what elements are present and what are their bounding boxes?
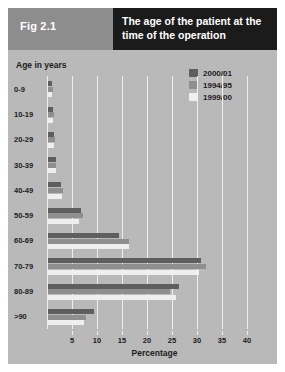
bar-group <box>47 203 262 228</box>
bar-group <box>47 177 262 202</box>
bar <box>48 118 53 123</box>
figure-title: The age of the patient at the time of th… <box>122 14 274 42</box>
x-tick-label: 15 <box>118 336 126 345</box>
bar <box>48 87 53 92</box>
x-tick <box>247 331 248 335</box>
x-tick <box>72 331 73 335</box>
chart-body: Age in years 2000/011994/951999/00 Perce… <box>8 50 277 364</box>
category-label: >90 <box>14 312 48 321</box>
bar <box>48 208 81 213</box>
figure-title-band: The age of the patient at the time of th… <box>113 8 277 50</box>
category-label: 80-89 <box>14 287 48 296</box>
figure-number: Fig 2.1 <box>20 20 56 32</box>
bar <box>48 284 179 289</box>
bar <box>48 258 201 263</box>
bar <box>48 244 129 249</box>
category-label: 60-69 <box>14 236 48 245</box>
bar <box>48 309 94 314</box>
x-tick <box>197 331 198 335</box>
bar-group <box>47 228 262 253</box>
bar-group <box>47 127 262 152</box>
x-tick-label: 5 <box>70 336 74 345</box>
bar <box>48 270 199 275</box>
x-tick-label: 30 <box>193 336 201 345</box>
x-tick-label: 20 <box>143 336 151 345</box>
bar <box>48 320 84 325</box>
bar-group <box>47 253 262 278</box>
y-axis-title: Age in years <box>16 60 67 70</box>
bar-group <box>47 278 262 303</box>
bar <box>48 213 83 218</box>
x-axis: Percentage 510152025303540 <box>47 331 262 361</box>
x-tick <box>97 331 98 335</box>
bar-group <box>47 101 262 126</box>
bar-group <box>47 76 262 101</box>
category-label: 40-49 <box>14 186 48 195</box>
bar <box>48 188 63 193</box>
x-tick <box>222 331 223 335</box>
x-tick <box>172 331 173 335</box>
bar <box>48 295 176 300</box>
bar <box>48 168 56 173</box>
bar <box>48 157 56 162</box>
bar <box>48 143 54 148</box>
bar <box>48 137 55 142</box>
bar-group <box>47 152 262 177</box>
bar <box>48 264 206 269</box>
bar <box>48 81 52 86</box>
x-tick-label: 40 <box>243 336 251 345</box>
bar <box>48 163 56 168</box>
bar-group <box>47 304 262 329</box>
bar <box>48 107 53 112</box>
figure-card: Fig 2.1 The age of the patient at the ti… <box>8 8 277 364</box>
category-label: 50-59 <box>14 211 48 220</box>
category-label: 0-9 <box>14 85 48 94</box>
category-label: 70-79 <box>14 262 48 271</box>
x-tick <box>122 331 123 335</box>
x-axis-title: Percentage <box>47 348 262 358</box>
bar <box>48 233 119 238</box>
figure-page: Fig 2.1 The age of the patient at the ti… <box>0 0 285 372</box>
bar <box>48 182 61 187</box>
bar <box>48 194 62 199</box>
category-label: 10-19 <box>14 110 48 119</box>
bar <box>48 315 86 320</box>
bar <box>48 219 79 224</box>
figure-header: Fig 2.1 The age of the patient at the ti… <box>8 8 277 50</box>
x-tick <box>147 331 148 335</box>
bar <box>48 289 170 294</box>
plot-area <box>47 76 262 329</box>
bar <box>48 132 54 137</box>
x-tick-label: 10 <box>93 336 101 345</box>
bar <box>48 92 52 97</box>
x-tick-label: 35 <box>218 336 226 345</box>
category-label: 20-29 <box>14 135 48 144</box>
bar <box>48 239 129 244</box>
bar <box>48 112 54 117</box>
figure-label-band: Fig 2.1 <box>8 8 113 50</box>
x-tick-label: 25 <box>168 336 176 345</box>
category-label: 30-39 <box>14 161 48 170</box>
